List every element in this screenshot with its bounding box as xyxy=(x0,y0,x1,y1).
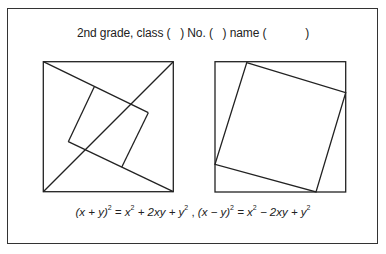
formula-1-rhs-b: + 2xy + y xyxy=(134,206,184,218)
formula-2-lhs: (x − y) xyxy=(198,206,230,218)
formula-1-lhs: (x + y) xyxy=(76,206,108,218)
left-figure xyxy=(43,62,173,192)
formula-1-rhs-a: = x xyxy=(112,206,131,218)
formula-2-rhs-b: − 2xy + y xyxy=(257,206,307,218)
right-figure xyxy=(215,62,346,192)
expansion-formula: (x + y)2 = x2 + 2xy + y2 , (x − y)2 = x2… xyxy=(0,206,386,218)
left-inner-edge-2 xyxy=(122,113,149,168)
left-diagonal-1 xyxy=(43,62,148,113)
left-inner-edge-1 xyxy=(68,87,94,142)
formula-separator: , xyxy=(188,206,198,218)
left-diagonal-2 xyxy=(43,62,173,192)
right-inner-tilted-square xyxy=(215,63,346,192)
left-diagonal-3 xyxy=(68,142,173,192)
formula-2-rhs-a: = x xyxy=(234,206,253,218)
right-outer-square xyxy=(215,62,346,192)
